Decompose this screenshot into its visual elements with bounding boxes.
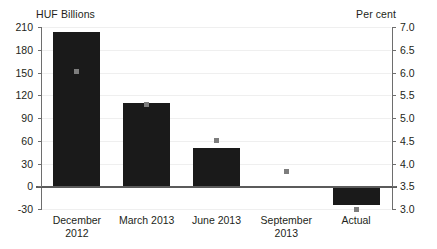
right-axis-tick [392,186,396,187]
right-axis-tick [392,164,396,165]
gridline [42,27,391,28]
bar [193,148,240,186]
right-axis-unit-label: Per cent [356,8,396,20]
left-axis-tick-label: 30 [0,159,33,170]
left-axis-tick-label: 0 [0,181,33,192]
left-axis-tick [38,209,42,210]
left-axis-tick [38,118,42,119]
right-axis-tick [392,50,396,51]
right-axis-tick-label: 6.0 [400,68,415,79]
right-axis-tick [392,209,396,210]
left-axis-tick [38,50,42,51]
gridline [42,209,391,210]
left-axis-tick [38,95,42,96]
right-axis-tick-label: 4.5 [400,136,415,147]
category-label: Actual [311,214,401,227]
left-axis-tick-label: 180 [0,45,33,56]
left-axis-tick-label: 120 [0,90,33,101]
left-axis-tick [38,164,42,165]
category-label-line: 2012 [32,227,122,240]
right-axis-tick-label: 5.5 [400,90,415,101]
right-axis-tick-label: 6.5 [400,45,415,56]
right-axis-tick-label: 5.0 [400,113,415,124]
category-label-line: Actual [311,214,401,227]
data-point-marker [284,169,289,174]
right-axis-tick-label: 3.5 [400,181,415,192]
left-axis-tick [38,27,42,28]
left-axis-tick-label: 150 [0,68,33,79]
right-axis-tick [392,73,396,74]
left-axis-tick [38,73,42,74]
right-axis-tick [392,141,396,142]
right-axis-tick [392,27,396,28]
data-point-marker [144,102,149,107]
left-axis-tick-label: 60 [0,136,33,147]
right-axis-tick-label: 4.0 [400,159,415,170]
left-axis-tick [38,186,42,187]
chart-container: HUF Billions Per cent 210180150120906030… [0,0,437,249]
left-axis-tick-label: -30 [0,204,33,215]
data-point-marker [214,138,219,143]
category-label-line: 2013 [241,227,331,240]
left-axis-tick-label: 90 [0,113,33,124]
right-axis-tick-label: 7.0 [400,22,415,33]
right-axis-tick [392,118,396,119]
zero-baseline [36,186,397,188]
data-point-marker [74,69,79,74]
right-axis-tick-label: 3.0 [400,204,415,215]
right-axis-tick [392,95,396,96]
data-point-marker [354,207,359,212]
plot-area [42,27,391,209]
bar [53,32,100,186]
left-axis-tick-label: 210 [0,22,33,33]
bar [123,103,170,186]
bar [333,186,380,205]
left-axis-tick [38,141,42,142]
left-axis-unit-label: HUF Billions [36,8,95,20]
